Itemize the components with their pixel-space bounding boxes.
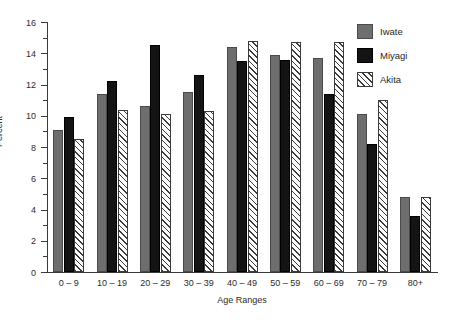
bar-miyagi-8 <box>410 216 420 272</box>
bar-chart: Percent 0246810121416 0 – 910 – 1920 – 2… <box>0 0 454 320</box>
bar-akita-7 <box>378 100 388 272</box>
legend-label-iwate: Iwate <box>380 26 403 37</box>
legend-item-miyagi: Miyagi <box>357 44 449 66</box>
legend-item-iwate: Iwate <box>357 20 449 42</box>
x-axis-tick-label: 30 – 39 <box>184 278 214 288</box>
bar-iwate-7 <box>357 114 367 272</box>
legend-label-miyagi: Miyagi <box>380 50 407 61</box>
bar-miyagi-5 <box>280 60 290 273</box>
bar-miyagi-3 <box>194 75 204 272</box>
bar-iwate-4 <box>227 47 237 272</box>
y-axis-title: Percent <box>0 116 4 147</box>
legend-item-akita: Akita <box>357 68 449 90</box>
y-axis-tick-label: 10 <box>26 112 41 121</box>
bar-iwate-8 <box>400 197 410 272</box>
bar-akita-2 <box>161 114 171 272</box>
bar-akita-4 <box>248 41 258 272</box>
bar-akita-6 <box>334 42 344 272</box>
x-axis-tick-label: 50 – 59 <box>270 278 300 288</box>
bar-iwate-3 <box>183 92 193 272</box>
bar-miyagi-1 <box>107 81 117 272</box>
bar-miyagi-2 <box>150 45 160 272</box>
y-axis-tick-label: 6 <box>31 174 41 183</box>
bar-iwate-1 <box>97 94 107 272</box>
x-axis-tick-label: 60 – 69 <box>314 278 344 288</box>
x-axis-tick-label: 20 – 29 <box>140 278 170 288</box>
bar-iwate-6 <box>313 58 323 272</box>
x-axis-tick-label: 80+ <box>408 278 423 288</box>
y-axis-tick-label: 4 <box>31 206 41 215</box>
legend: Iwate Miyagi Akita <box>357 20 449 92</box>
bar-miyagi-7 <box>367 144 377 272</box>
bar-miyagi-0 <box>64 117 74 272</box>
bar-miyagi-6 <box>324 94 334 272</box>
bar-iwate-5 <box>270 55 280 272</box>
y-axis-tick-label: 16 <box>26 18 41 27</box>
x-axis-tick-label: 40 – 49 <box>227 278 257 288</box>
bar-akita-8 <box>421 197 431 272</box>
bar-akita-0 <box>74 139 84 272</box>
bar-iwate-2 <box>140 106 150 272</box>
y-axis-tick-label: 0 <box>31 268 41 277</box>
legend-swatch-icon-iwate <box>357 24 373 39</box>
y-axis-tick-label: 2 <box>31 237 41 246</box>
bar-akita-1 <box>118 110 128 273</box>
y-axis-tick-label: 8 <box>31 143 41 152</box>
x-axis-tick-label: 70 – 79 <box>357 278 387 288</box>
bar-akita-3 <box>204 111 214 272</box>
x-axis-tick-label: 10 – 19 <box>97 278 127 288</box>
y-axis-tick-label: 12 <box>26 81 41 90</box>
x-axis-line <box>47 272 438 273</box>
bar-miyagi-4 <box>237 61 247 272</box>
x-axis-tick-label: 0 – 9 <box>59 278 79 288</box>
bar-iwate-0 <box>53 130 63 272</box>
legend-swatch-icon-miyagi <box>357 48 373 63</box>
bar-akita-5 <box>291 42 301 272</box>
y-axis-tick-label: 14 <box>26 49 41 58</box>
legend-label-akita: Akita <box>380 74 401 85</box>
x-axis-title: Age Ranges <box>217 295 267 305</box>
y-axis-tick-major: 0 <box>41 272 47 273</box>
legend-swatch-icon-akita <box>357 72 373 87</box>
